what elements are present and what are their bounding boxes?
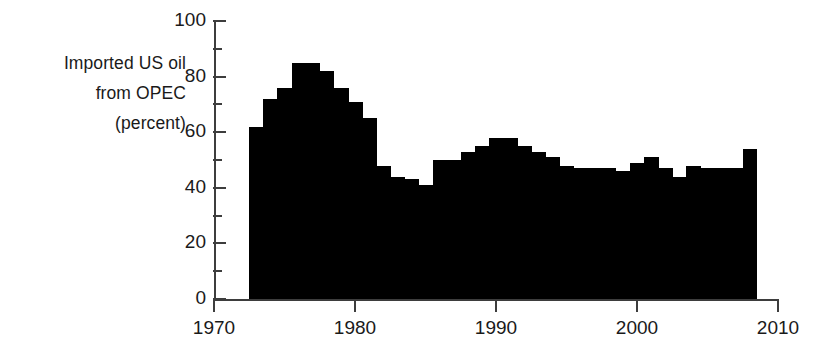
bar-2008 <box>743 149 758 299</box>
bar-2007 <box>729 168 744 299</box>
bar-1994 <box>545 157 560 299</box>
plot-area: 020406080100 19701980199020002010 <box>214 21 778 299</box>
y-tick-label-20: 20 <box>185 231 206 253</box>
y-tick-label-80: 80 <box>185 65 206 87</box>
y-axis-title-line-3: (percent) <box>8 108 186 138</box>
bar-1982 <box>376 166 391 299</box>
y-axis-title: Imported US oil from OPEC (percent) <box>8 48 186 138</box>
chart-page: Imported US oil from OPEC (percent) 0204… <box>0 0 823 363</box>
bar-2004 <box>686 166 701 299</box>
y-tick-label-40: 40 <box>185 176 206 198</box>
x-tick-2000 <box>636 299 638 312</box>
bar-1998 <box>602 168 617 299</box>
x-tick-label-1970: 1970 <box>193 317 235 339</box>
bar-1981 <box>362 118 377 299</box>
bar-1975 <box>277 88 292 299</box>
bar-1995 <box>559 166 574 299</box>
y-axis-title-line-1: Imported US oil <box>8 48 186 78</box>
bar-1997 <box>588 168 603 299</box>
bar-1978 <box>320 71 335 299</box>
bar-1976 <box>292 63 307 299</box>
y-tick-label-0: 0 <box>195 287 206 309</box>
y-tick-label-60: 60 <box>185 120 206 142</box>
bar-1989 <box>475 146 490 299</box>
bar-1986 <box>433 160 448 299</box>
bar-2005 <box>700 168 715 299</box>
data-series-opec-share <box>214 21 778 299</box>
bar-1996 <box>574 168 589 299</box>
bar-2000 <box>630 163 645 299</box>
bar-1973 <box>249 127 264 299</box>
x-tick-label-2010: 2010 <box>757 317 799 339</box>
bar-1990 <box>489 138 504 299</box>
x-tick-label-1990: 1990 <box>475 317 517 339</box>
x-tick-2010 <box>777 299 779 312</box>
bar-2002 <box>658 168 673 299</box>
x-tick-1990 <box>495 299 497 312</box>
y-tick-label-100: 100 <box>174 9 206 31</box>
bar-1979 <box>334 88 349 299</box>
x-tick-1980 <box>354 299 356 312</box>
bar-1985 <box>418 185 433 299</box>
bar-1984 <box>404 179 419 299</box>
bar-1983 <box>390 177 405 299</box>
x-tick-label-2000: 2000 <box>616 317 658 339</box>
bar-1977 <box>306 63 321 299</box>
bar-1993 <box>531 152 546 299</box>
x-tick-1970 <box>213 299 215 312</box>
bar-1991 <box>503 138 518 299</box>
bar-1980 <box>348 102 363 299</box>
x-tick-label-1980: 1980 <box>334 317 376 339</box>
bar-2006 <box>715 168 730 299</box>
y-axis-title-line-2: from OPEC <box>8 78 186 108</box>
bar-1987 <box>447 160 462 299</box>
bar-1999 <box>616 171 631 299</box>
bar-2001 <box>644 157 659 299</box>
bar-1974 <box>263 99 278 299</box>
bar-1988 <box>461 152 476 299</box>
bar-2003 <box>672 177 687 299</box>
bar-1992 <box>517 146 532 299</box>
